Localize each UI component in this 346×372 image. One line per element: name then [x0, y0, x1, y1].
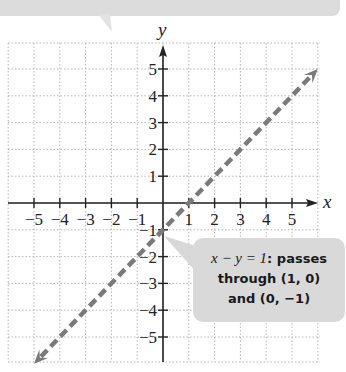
callout-equation: x − y = 1 [211, 250, 267, 266]
svg-text:3: 3 [236, 210, 245, 229]
top-callout [0, 0, 340, 32]
svg-text:−2: −2 [139, 248, 157, 267]
svg-text:4: 4 [262, 210, 271, 229]
callout-line1-rest: : passes [267, 251, 327, 266]
svg-text:−5: −5 [139, 328, 157, 347]
svg-text:4: 4 [149, 87, 158, 106]
svg-text:−2: −2 [102, 210, 120, 229]
svg-text:−4: −4 [51, 210, 70, 229]
svg-text:−3: −3 [77, 210, 95, 229]
callout-text: x − y = 1: passes through (1, 0) and (0,… [193, 248, 345, 309]
callout-line2: through (1, 0) [193, 269, 345, 289]
svg-text:5: 5 [288, 210, 297, 229]
svg-text:−4: −4 [139, 301, 158, 320]
svg-text:1: 1 [149, 167, 158, 186]
svg-text:y: y [156, 19, 167, 40]
svg-text:3: 3 [149, 114, 158, 133]
svg-text:x: x [322, 191, 332, 212]
svg-text:1: 1 [185, 210, 194, 229]
svg-text:−5: −5 [25, 210, 43, 229]
svg-text:5: 5 [149, 60, 158, 79]
callout-line3: and (0, −1) [193, 289, 345, 309]
svg-text:2: 2 [149, 140, 158, 159]
svg-text:−3: −3 [139, 274, 157, 293]
coordinate-plane: −5−4−3−2−112345−5−4−3−2−112345xy [0, 0, 346, 372]
svg-text:2: 2 [210, 210, 219, 229]
svg-text:−1: −1 [139, 221, 157, 240]
